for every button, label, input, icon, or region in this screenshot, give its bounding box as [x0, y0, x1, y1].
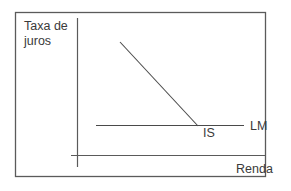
- x-axis-label: Renda: [236, 162, 273, 176]
- is-curve: [120, 42, 198, 126]
- y-axis-label-line1: Taxa de: [24, 19, 68, 33]
- diagram-frame: [16, 13, 266, 177]
- is-label: IS: [203, 126, 215, 140]
- lm-label: LM: [250, 119, 267, 133]
- y-axis-label-line2: juros: [23, 34, 51, 48]
- is-lm-diagram: Taxa de juros LM IS Renda: [0, 0, 291, 191]
